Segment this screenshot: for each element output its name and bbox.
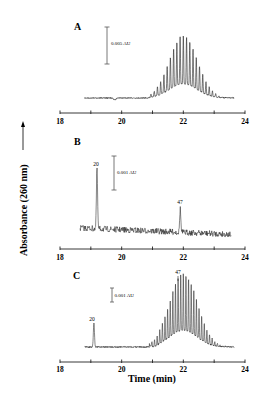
tick-label-20: 20 [118, 365, 126, 374]
y-axis-title: Absorbance (260 nm) [18, 164, 30, 256]
scale-bar-a: 0.005 AU [105, 27, 131, 64]
trace-b [80, 168, 231, 237]
tick-label-18: 18 [56, 253, 64, 262]
tick-label-22: 22 [180, 117, 188, 126]
tick-label-18: 18 [56, 117, 64, 126]
tick-label-24: 24 [241, 365, 249, 374]
tick-label-22: 22 [180, 365, 188, 374]
x-axis-b: 18 20 22 24 [56, 247, 249, 263]
panel-c-label: C [73, 270, 80, 281]
peak-label-20-c: 20 [89, 316, 95, 322]
scale-bar-b: 0.001 AU [112, 156, 137, 190]
scale-bar-a-label: 0.005 AU [111, 41, 131, 46]
chromatogram-figure: Absorbance (260 nm) A 0.005 AU 18 20 22 … [0, 0, 263, 401]
tick-label-18: 18 [56, 365, 64, 374]
tick-label-20: 20 [118, 253, 126, 262]
peak-label-20-b: 20 [93, 161, 99, 167]
peak-label-47-c: 47 [175, 269, 181, 275]
x-axis-a: 18 20 22 24 [56, 111, 249, 127]
scale-bar-c-label: 0.001 AU [115, 293, 135, 298]
panel-a-label: A [74, 21, 82, 32]
tick-label-24: 24 [241, 253, 249, 262]
x-axis-c: 18 20 22 24 [56, 360, 249, 375]
scale-bar-b-label: 0.001 AU [117, 170, 137, 175]
panel-a: A 0.005 AU 18 20 22 24 [56, 21, 249, 126]
tick-label-22: 22 [180, 253, 188, 262]
panel-c: C 0.001 AU 20 47 18 20 22 24 Time (min) [56, 269, 249, 385]
tick-label-20: 20 [118, 117, 126, 126]
tick-label-24: 24 [241, 117, 249, 126]
x-axis-title: Time (min) [128, 373, 176, 385]
peak-label-47-b: 47 [177, 199, 183, 205]
scale-bar-c: 0.001 AU [110, 288, 134, 302]
y-axis-title-group: Absorbance (260 nm) [18, 121, 30, 256]
panel-b-label: B [74, 136, 81, 147]
arrow-up-icon [21, 121, 25, 127]
trace-c [85, 274, 234, 348]
panel-b: B 0.001 AU 20 47 18 20 22 24 [56, 136, 249, 262]
